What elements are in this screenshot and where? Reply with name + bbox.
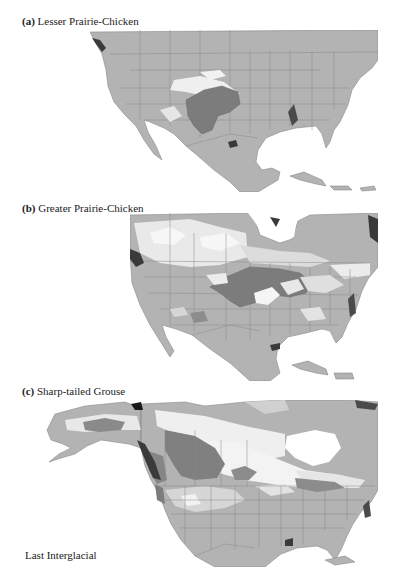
panel-b-label: (b) Greater Prairie-Chicken bbox=[22, 202, 144, 215]
panel-b-title: Greater Prairie-Chicken bbox=[38, 202, 143, 214]
map-lesser-prairie-chicken bbox=[90, 30, 378, 192]
period-label: Last Interglacial bbox=[25, 549, 97, 562]
panel-c-letter: (c) bbox=[22, 385, 34, 397]
panel-c-label: (c) Sharp-tailed Grouse bbox=[22, 385, 125, 398]
panel-b-letter: (b) bbox=[22, 202, 35, 214]
panel-c-title: Sharp-tailed Grouse bbox=[37, 385, 125, 397]
map-greater-prairie-chicken bbox=[130, 213, 378, 381]
panel-a-letter: (a) bbox=[22, 15, 35, 27]
panel-a-title: Lesser Prairie-Chicken bbox=[38, 15, 139, 27]
panel-a-label: (a) Lesser Prairie-Chicken bbox=[22, 15, 139, 28]
map-sharp-tailed-grouse bbox=[45, 400, 378, 567]
